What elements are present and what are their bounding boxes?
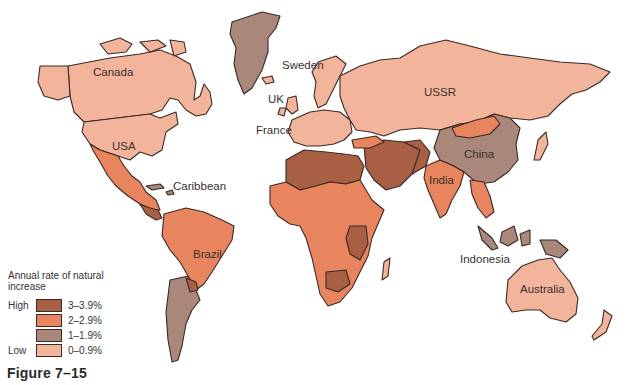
region-japan <box>534 132 548 160</box>
legend-range: 1–1.9% <box>68 330 102 341</box>
legend-range: 0–0.9% <box>68 345 102 356</box>
region-madagascar <box>382 258 390 280</box>
region-canada <box>68 50 212 122</box>
region-southeast-asia <box>470 180 494 218</box>
legend-swatch <box>36 344 62 357</box>
label-canada: Canada <box>93 66 133 78</box>
label-australia: Australia <box>520 283 565 295</box>
legend-level: Low <box>8 345 36 356</box>
legend-level: High <box>8 300 36 311</box>
region-new-zealand <box>592 310 612 340</box>
region-western-europe <box>288 110 352 146</box>
legend-item: 1–1.9% <box>8 328 118 343</box>
label-france: France <box>256 124 292 136</box>
region-caribbean <box>146 184 174 195</box>
legend-range: 2–2.9% <box>68 315 102 326</box>
legend-range: 3–3.9% <box>68 300 102 311</box>
figure-caption: Figure 7–15 <box>7 365 87 381</box>
legend-item: 2–2.9% <box>8 313 118 328</box>
label-sweden: Sweden <box>282 59 324 71</box>
label-caribbean: Caribbean <box>173 180 226 192</box>
legend-title: Annual rate of natural increase <box>8 270 118 292</box>
region-alaska <box>38 66 70 100</box>
label-ussr: USSR <box>424 86 456 98</box>
legend-item: High 3–3.9% <box>8 298 118 313</box>
legend-swatch <box>36 314 62 327</box>
label-china: China <box>464 148 494 160</box>
label-usa: USA <box>112 140 136 152</box>
legend-swatch <box>36 299 62 312</box>
label-uk: UK <box>268 93 284 105</box>
legend-item: Low 0–0.9% <box>8 343 118 358</box>
label-india: India <box>429 174 454 186</box>
label-indonesia: Indonesia <box>460 253 510 265</box>
region-iceland <box>262 76 274 84</box>
label-brazil: Brazil <box>193 248 222 260</box>
legend: Annual rate of natural increase High 3–3… <box>8 270 118 358</box>
legend-swatch <box>36 329 62 342</box>
